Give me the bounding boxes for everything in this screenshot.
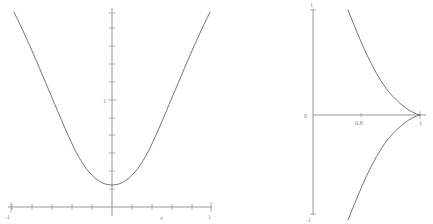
right-axis-tick-marks: [310, 10, 420, 214]
right-x-mid-label: 0.8: [355, 119, 363, 126]
lower-branch-curve: [348, 115, 420, 220]
left-plot-panel: -1 1 1 x: [0, 0, 230, 224]
right-y-top-label: 1: [310, 1, 313, 8]
left-plot-canvas: -1 1 1 x: [0, 0, 230, 224]
right-origin-label: 0: [304, 112, 307, 119]
right-plot-panel: 0 1 -1 0.8 1: [230, 0, 433, 224]
right-x-max-label: 1: [419, 119, 422, 126]
left-x-max-tick-label: 1: [208, 213, 211, 220]
right-plot-canvas: 0 1 -1 0.8 1: [230, 0, 433, 224]
upper-branch-curve: [348, 10, 420, 115]
right-y-bottom-label: -1: [306, 216, 311, 223]
left-x-axis-title: x: [159, 214, 163, 221]
figure-root: -1 1 1 x 0 1 -1: [0, 0, 433, 224]
left-x-min-tick-label: -1: [5, 213, 10, 220]
left-y-one-tick-label: 1: [103, 97, 106, 104]
